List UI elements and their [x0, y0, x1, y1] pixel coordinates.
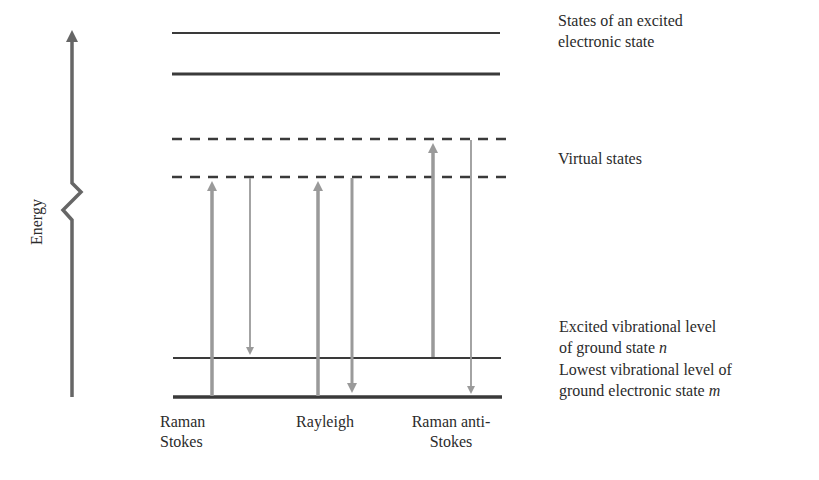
label-line: ground electronic state m	[559, 380, 732, 401]
label-line: Virtual states	[558, 148, 642, 169]
lowest-vibrational-level-label: Lowest vibrational level of ground elect…	[559, 359, 732, 401]
label-line: Stokes	[395, 432, 507, 452]
label-text: of ground state	[559, 339, 659, 356]
energy-level-diagram	[0, 0, 819, 480]
label-line: Raman anti-	[395, 412, 507, 432]
label-line: electronic state	[558, 31, 683, 52]
label-line: States of an excited	[558, 10, 683, 31]
label-line: Raman	[160, 412, 230, 432]
rayleigh-transitions	[318, 178, 352, 396]
raman-stokes-transitions	[212, 178, 250, 396]
raman-stokes-label: Raman Stokes	[160, 412, 230, 452]
label-line: Stokes	[160, 432, 230, 452]
label-line: Excited vibrational level	[559, 316, 716, 337]
axis-arrow-icon	[63, 36, 81, 397]
excited-electronic-state-label: States of an excited electronic state	[558, 10, 683, 52]
label-line: Rayleigh	[285, 412, 365, 432]
energy-axis	[63, 36, 81, 397]
excited-vibrational-level-label: Excited vibrational level of ground stat…	[559, 316, 716, 358]
label-line: Lowest vibrational level of	[559, 359, 732, 380]
raman-anti-stokes-label: Raman anti- Stokes	[395, 412, 507, 452]
state-symbol-m: m	[709, 382, 721, 399]
state-symbol-n: n	[659, 339, 667, 356]
rayleigh-label: Rayleigh	[285, 412, 365, 432]
label-text: ground electronic state	[559, 382, 709, 399]
energy-axis-label: Energy	[28, 199, 46, 245]
label-line: of ground state n	[559, 337, 716, 358]
virtual-states-label: Virtual states	[558, 148, 642, 169]
